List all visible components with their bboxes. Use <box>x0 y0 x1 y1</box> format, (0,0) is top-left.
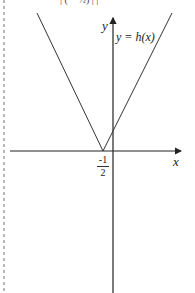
vertex-label-numerator: -1 <box>95 155 111 165</box>
vertex-label: -1 2 <box>95 155 111 178</box>
graph-canvas <box>0 0 195 293</box>
x-axis-label: x <box>173 155 179 168</box>
y-axis-label: y <box>102 19 108 32</box>
curve-label: y = h(x) <box>116 31 155 43</box>
vertex-label-denominator: 2 <box>95 168 111 178</box>
